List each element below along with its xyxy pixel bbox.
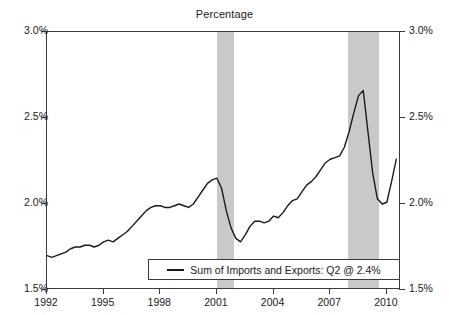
y-tick-label-left: 2.0% xyxy=(24,196,48,208)
x-tick-mark xyxy=(46,289,47,294)
y-tick-label-right: 1.5% xyxy=(409,282,433,294)
x-tick-mark xyxy=(386,289,387,294)
y-tick-label-right: 2.5% xyxy=(409,110,433,122)
y-tick-mark-right xyxy=(399,289,405,290)
x-tick-mark xyxy=(159,289,160,294)
x-tick-label: 1998 xyxy=(148,296,171,308)
y-tick-label-left: 1.5% xyxy=(24,282,48,294)
x-tick-mark xyxy=(216,289,217,294)
chart-title: Percentage xyxy=(0,8,449,20)
y-tick-label-left: 3.0% xyxy=(24,24,48,36)
x-tick-mark xyxy=(329,289,330,294)
x-tick-label: 1995 xyxy=(91,296,114,308)
y-tick-mark-right xyxy=(399,117,405,118)
chart-legend: Sum of Imports and Exports: Q2 @ 2.4% xyxy=(148,259,400,280)
y-tick-mark-right xyxy=(399,31,405,32)
y-tick-mark-right xyxy=(399,203,405,204)
x-tick-label: 1992 xyxy=(34,296,57,308)
x-tick-mark xyxy=(103,289,104,294)
y-tick-label-left: 2.5% xyxy=(24,110,48,122)
y-tick-label-right: 3.0% xyxy=(409,24,433,36)
series-line-sum-of-imports-and-exports xyxy=(47,32,400,289)
chart-figure: Percentage 3.0%3.0%2.5%2.5%2.0%2.0%1.5%1… xyxy=(0,0,449,315)
legend-label: Sum of Imports and Exports: Q2 @ 2.4% xyxy=(190,264,380,276)
plot-area xyxy=(46,31,400,289)
x-tick-mark xyxy=(273,289,274,294)
x-tick-label: 2004 xyxy=(261,296,284,308)
x-tick-label: 2007 xyxy=(318,296,341,308)
x-tick-label: 2001 xyxy=(204,296,227,308)
y-tick-label-right: 2.0% xyxy=(409,196,433,208)
legend-line-swatch xyxy=(167,269,184,271)
x-tick-label: 2010 xyxy=(374,296,397,308)
